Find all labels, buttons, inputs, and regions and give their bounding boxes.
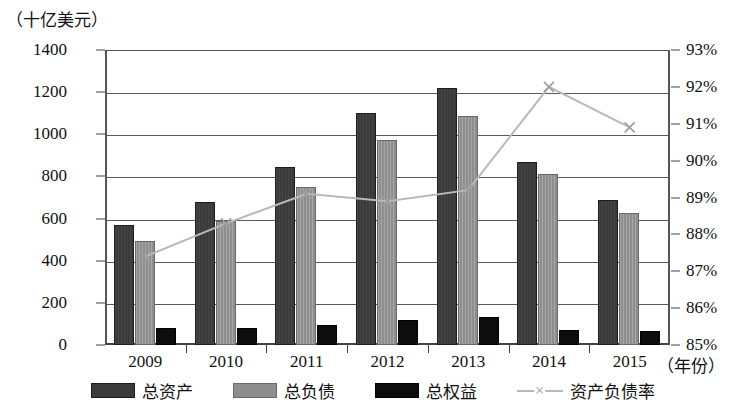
y-axis-left-tick-label: 800: [1, 166, 67, 186]
x-axis-tick-mark: [347, 345, 348, 353]
legend-swatch-equity-icon: [375, 383, 419, 398]
ratio-marker-2014: [544, 82, 554, 92]
legend-item-assets[interactable]: 总资产: [91, 378, 193, 403]
x-axis-tick-mark: [186, 345, 187, 353]
y-axis-right-tick-mark: [671, 160, 680, 161]
legend-label: 总负债: [284, 378, 335, 403]
y-axis-right-tick-mark: [671, 308, 680, 309]
ratio-marker-2015: [625, 122, 635, 132]
legend-item-liab[interactable]: 总负债: [233, 378, 335, 403]
y-axis-left-tick-mark: [96, 176, 105, 177]
chart-container: （十亿美元） 0200400600800100012001400 85%86%8…: [0, 0, 745, 407]
y-axis-right-tick-label: 89%: [686, 188, 745, 208]
legend-swatch-ratio-icon: [517, 384, 563, 398]
ratio-line-layer: [105, 50, 670, 345]
y-axis-left-tick-mark: [96, 345, 105, 346]
y-axis-right-tick-mark: [671, 197, 680, 198]
y-axis-left-tick-label: 0: [1, 335, 67, 355]
y-axis-left-tick-label: 200: [1, 293, 67, 313]
y-axis-right-tick-mark: [671, 50, 680, 51]
y-axis-right-tick-label: 87%: [686, 261, 745, 281]
x-axis-tick-label: 2015: [613, 352, 647, 372]
y-axis-left-tick-label: 1000: [1, 124, 67, 144]
ratio-line-path: [145, 87, 629, 257]
y-axis-right-tick-label: 86%: [686, 298, 745, 318]
y-axis-right-tick-label: 88%: [686, 224, 745, 244]
legend-item-ratio[interactable]: 资产负债率: [517, 378, 655, 403]
x-axis-tick-label: 2009: [128, 352, 162, 372]
legend-swatch-liab-icon: [233, 383, 277, 398]
x-axis-tick-mark: [509, 345, 510, 353]
y-axis-right-tick-label: 93%: [686, 40, 745, 60]
legend-label: 总资产: [142, 378, 193, 403]
y-axis-left-tick-mark: [96, 302, 105, 303]
x-axis-title: （年份）: [657, 352, 725, 377]
y-axis-right-tick-mark: [671, 271, 680, 272]
y-axis-left-tick-mark: [96, 92, 105, 93]
y-axis-right-tick-mark: [671, 86, 680, 87]
x-axis-tick-label: 2014: [532, 352, 566, 372]
y-axis-right-tick-label: 92%: [686, 77, 745, 97]
chart-legend: 总资产总负债总权益资产负债率: [0, 378, 745, 403]
x-axis-tick-label: 2012: [371, 352, 405, 372]
ratio-marker-2010: [221, 218, 231, 228]
y-axis-left-tick-mark: [96, 260, 105, 261]
x-axis-tick-label: 2011: [290, 352, 323, 372]
y-axis-left-tick-label: 400: [1, 251, 67, 271]
y-axis-right-tick-label: 90%: [686, 151, 745, 171]
x-axis-tick-mark: [428, 345, 429, 353]
y-axis-left-tick-mark: [96, 50, 105, 51]
x-axis-tick-label: 2010: [209, 352, 243, 372]
y-axis-left-tick-label: 1400: [1, 40, 67, 60]
y-axis-left-tick-mark: [96, 218, 105, 219]
x-axis-tick-mark: [589, 345, 590, 353]
x-axis-tick-label: 2013: [451, 352, 485, 372]
y-axis-right-tick-mark: [671, 345, 680, 346]
y-axis-left-tick-mark: [96, 134, 105, 135]
legend-item-equity[interactable]: 总权益: [375, 378, 477, 403]
y-axis-left-tick-label: 600: [1, 209, 67, 229]
legend-label: 总权益: [426, 378, 477, 403]
ratio-marker-2009: [140, 252, 150, 262]
y-axis-right-tick-label: 91%: [686, 114, 745, 134]
legend-swatch-assets-icon: [91, 383, 135, 398]
y-axis-right-tick-mark: [671, 234, 680, 235]
y-axis-unit-label: （十亿美元）: [6, 6, 108, 31]
y-axis-right-tick-mark: [671, 123, 680, 124]
y-axis-left-tick-label: 1200: [1, 82, 67, 102]
ratio-line-svg: [105, 50, 670, 345]
legend-label: 资产负债率: [570, 378, 655, 403]
x-axis-tick-mark: [266, 345, 267, 353]
